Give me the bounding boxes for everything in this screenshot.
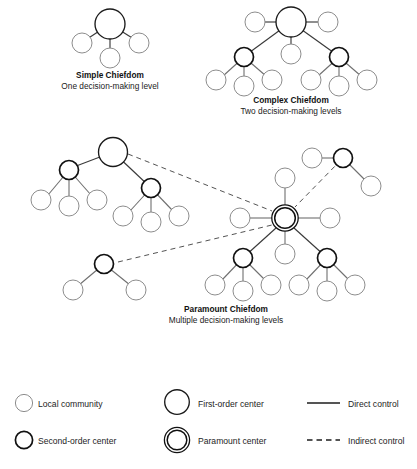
legend-label-paramount-center: Paramount center [198,436,266,446]
node-second-order-center [318,249,337,268]
node-second-order-center [330,48,349,67]
indirect-link-upper-right [295,160,341,207]
node-second-order-center [142,179,161,198]
node-local-community [357,70,377,90]
node-local-community [129,33,149,53]
node-second-order-center [235,48,254,67]
node-local-community [261,275,281,295]
node-local-community [63,280,83,300]
legend-label-first-order-center: First-order center [198,399,264,409]
node-local-community [289,275,309,295]
node-local-community [275,244,295,264]
panel-paramount-chiefdom: Paramount Chiefdom Multiple decision-mak… [31,138,381,326]
node-local-community [281,44,301,64]
paramount-direct-links [222,185,349,284]
diagram-svg: Simple Chiefdom One decision-making leve… [0,0,417,469]
panel-simple-chiefdom: Simple Chiefdom One decision-making leve… [61,9,158,91]
node-local-community [361,176,381,196]
panel-subtitle-simple: One decision-making level [61,81,158,91]
paramount-center-icon-inner [167,430,187,450]
node-local-community [345,275,365,295]
node-first-order-center [95,9,125,39]
legend-label-indirect-control: Indirect control [348,436,404,446]
paramount-subtree-lower-left [63,255,146,301]
node-local-community [275,168,295,188]
node-local-community [59,196,79,216]
first-order-center-icon [165,390,190,415]
node-local-community [230,208,250,228]
legend: Local community Second-order center Firs… [15,390,404,453]
figure-canvas: Simple Chiefdom One decision-making leve… [0,0,417,469]
legend-label-second-order-center: Second-order center [38,436,116,446]
node-local-community [206,70,226,90]
legend-item-direct-control: Direct control [307,399,399,409]
node-local-community [205,275,225,295]
node-local-community [31,190,51,210]
legend-label-direct-control: Direct control [348,399,399,409]
legend-item-first-order-center: First-order center [165,390,264,415]
node-local-community [141,212,161,232]
node-local-community [301,70,321,90]
node-first-order-center [99,138,128,167]
node-second-order-center [234,249,253,268]
paramount-subtree-upper-left [31,138,189,233]
node-local-community [317,281,337,301]
paramount-subtree-upper-right [302,148,381,196]
node-local-community [126,280,146,300]
second-order-center-icon [15,431,32,448]
node-local-community [302,148,322,168]
local-community-icon [15,394,32,411]
node-paramount-center [272,205,298,231]
node-local-community [318,12,338,32]
panel-subtitle-complex: Two decision-making levels [241,106,342,116]
node-local-community [169,206,189,226]
legend-item-second-order-center: Second-order center [15,431,116,448]
node-second-order-center [334,149,353,168]
node-local-community [234,76,254,96]
panel-subtitle-paramount: Multiple decision-making levels [169,315,283,325]
node-local-community [262,70,282,90]
panel-title-paramount: Paramount Chiefdom [184,304,268,314]
node-local-community [100,48,120,68]
legend-item-paramount-center: Paramount center [164,427,266,452]
node-second-order-center [60,161,79,180]
legend-item-local-community: Local community [15,394,103,411]
legend-item-indirect-control: Indirect control [307,436,404,446]
node-local-community [329,76,349,96]
node-second-order-center [95,255,114,274]
node-local-community [233,281,253,301]
legend-label-local-community: Local community [38,399,103,409]
node-local-community [320,208,340,228]
panel-title-complex: Complex Chiefdom [253,95,329,105]
node-local-community [72,33,92,53]
node-local-community [245,12,265,32]
panel-title-simple: Simple Chiefdom [76,70,144,80]
node-local-community [113,206,133,226]
panel-complex-chiefdom: Complex Chiefdom Two decision-making lev… [206,7,377,116]
node-first-order-center [276,7,306,37]
node-local-community [87,190,107,210]
